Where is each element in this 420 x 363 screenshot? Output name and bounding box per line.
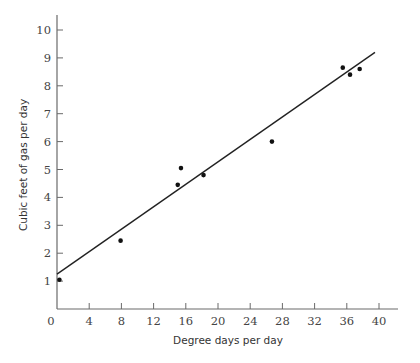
x-tick-label: 0 [47,314,54,328]
y-tick-label: 9 [44,51,51,65]
data-point [175,183,180,188]
y-tick-label: 10 [36,23,51,37]
x-tick-label: 40 [372,314,387,328]
x-tick-label: 16 [178,314,193,328]
y-tick-label: 6 [44,135,51,149]
x-axis-title: Degree days per day [173,334,283,346]
y-tick-label: 2 [44,246,51,260]
data-point [57,277,62,282]
y-tick-label: 1 [44,274,51,288]
data-series [57,52,375,282]
x-tick-label: 28 [275,314,290,328]
x-tick-label: 24 [243,314,258,328]
data-point [340,65,345,70]
regression-line [57,52,375,274]
plot-area: 12345678910 0481216202428323640 [36,15,398,328]
data-point [348,72,353,77]
x-tick-label: 8 [118,314,125,328]
y-tick-label: 8 [44,79,51,93]
scatter-chart: 12345678910 0481216202428323640 Degree d… [0,0,420,363]
x-tick-label: 36 [339,314,354,328]
y-axis-title: Cubic feet of gas per day [17,99,29,231]
y-tick-label: 7 [44,107,51,121]
x-tick-label: 12 [146,314,161,328]
data-point [118,238,123,243]
data-point [179,166,184,171]
data-point [270,139,275,144]
x-tick-label: 4 [86,314,93,328]
y-ticks: 12345678910 [36,23,63,288]
x-tick-label: 32 [307,314,322,328]
y-tick-label: 5 [44,163,51,177]
x-ticks: 0481216202428323640 [47,303,386,328]
y-tick-label: 4 [44,190,51,204]
data-point [357,67,362,72]
x-tick-label: 20 [211,314,226,328]
y-tick-label: 3 [44,218,51,232]
